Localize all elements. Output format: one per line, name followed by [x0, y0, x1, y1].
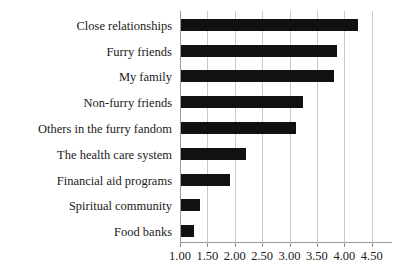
category-axis-labels: Close relationshipsFurry friendsMy famil…: [0, 11, 176, 243]
x-axis-tick: [235, 243, 236, 247]
x-axis-tick: [290, 243, 291, 247]
x-axis-tick: [372, 243, 373, 247]
category-label: Close relationships: [77, 20, 172, 32]
x-axis-line: [180, 242, 392, 243]
bar: [181, 19, 358, 31]
x-axis-tick: [344, 243, 345, 247]
category-label: The health care system: [57, 149, 172, 161]
x-tick-label: 4.50: [361, 249, 383, 263]
x-axis-tick: [180, 243, 181, 247]
x-tick-label: 2.00: [224, 249, 246, 263]
category-label: Non-furry friends: [83, 97, 172, 109]
bar: [181, 45, 337, 57]
category-label: My family: [119, 71, 172, 83]
x-tick-label: 3.50: [306, 249, 328, 263]
horizontal-bar-chart: Close relationshipsFurry friendsMy famil…: [0, 0, 413, 280]
bar: [181, 96, 303, 108]
x-tick-label: 2.50: [251, 249, 273, 263]
bar: [181, 70, 334, 82]
category-label: Spiritual community: [69, 200, 172, 212]
x-tick-label: 1.50: [196, 249, 218, 263]
gridline: [344, 11, 345, 243]
bar: [181, 199, 200, 211]
bar: [181, 148, 246, 160]
x-tick-label: 1.00: [169, 249, 191, 263]
x-axis-tick: [262, 243, 263, 247]
category-label: Food banks: [114, 226, 172, 238]
gridline: [372, 11, 373, 243]
bar: [181, 174, 230, 186]
bar: [181, 225, 194, 237]
x-axis-tick: [207, 243, 208, 247]
bar: [181, 122, 296, 134]
x-tick-label: 4.00: [333, 249, 355, 263]
category-label: Furry friends: [106, 46, 172, 58]
plot-area: [180, 11, 392, 243]
category-label: Others in the furry fandom: [38, 123, 172, 135]
x-axis-tick: [317, 243, 318, 247]
x-axis-tick-labels: 1.001.502.002.503.003.504.004.50: [180, 249, 392, 267]
category-label: Financial aid programs: [57, 175, 172, 187]
x-tick-label: 3.00: [279, 249, 301, 263]
